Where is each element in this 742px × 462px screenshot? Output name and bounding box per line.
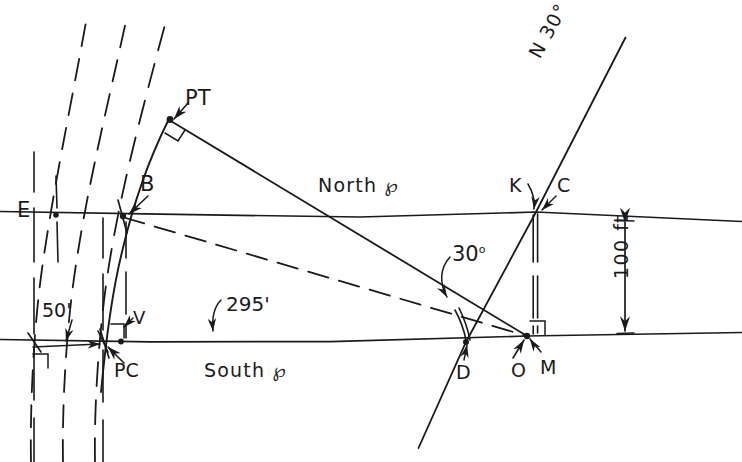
label-m: M xyxy=(540,358,556,377)
label-d: D xyxy=(456,363,471,382)
leader-arrow-k xyxy=(528,184,534,209)
tangent-line-pt-to-o xyxy=(170,121,527,337)
dimension-tick-bottom xyxy=(617,333,634,334)
label-e: E xyxy=(17,200,30,221)
point-marker-o xyxy=(524,333,530,339)
leader-arrow-b xyxy=(129,196,148,214)
label-north-centerline: North ℘ xyxy=(318,176,399,195)
offset-arc-middle xyxy=(63,21,126,462)
label-k: K xyxy=(509,176,521,195)
label-offset-100ft: 100 ft xyxy=(612,214,631,279)
offset-arc-outer xyxy=(31,22,86,462)
dimension-arrow-50-left xyxy=(66,320,72,341)
point-marker-e xyxy=(53,212,59,218)
chord-line-b-to-o xyxy=(124,218,527,337)
label-angle-30deg: 30o xyxy=(452,244,485,265)
offset-arc-inner xyxy=(95,17,167,462)
south-centerline-line xyxy=(0,333,742,342)
angle-value: 30 xyxy=(452,242,479,266)
surveying-diagram-canvas: PT B E North ℘ K C N 30° E 100 ft 30o 50… xyxy=(0,0,742,462)
label-dim-50: 50' xyxy=(42,301,71,320)
point-marker-d xyxy=(463,339,469,345)
extension-line-through-e xyxy=(56,176,58,262)
angle-arc-30-outer xyxy=(455,310,466,340)
bearing-line-n30e xyxy=(419,38,626,449)
leader-arrow-v xyxy=(124,318,133,327)
right-angle-symbol-v xyxy=(111,324,124,338)
degree-symbol: o xyxy=(479,243,486,256)
label-pt: PT xyxy=(185,88,211,109)
right-angle-symbol-left xyxy=(33,354,48,368)
leader-arrow-295 xyxy=(213,300,221,331)
leader-arrow-o xyxy=(513,340,524,358)
right-angle-symbol-pt xyxy=(165,130,185,141)
leader-arrow-30deg xyxy=(442,257,450,297)
point-marker-v xyxy=(118,339,124,345)
label-v: V xyxy=(133,309,145,327)
point-marker-pt xyxy=(167,116,174,123)
label-south-centerline: South ℘ xyxy=(204,361,287,380)
label-o: O xyxy=(511,361,526,380)
point-marker-b xyxy=(120,213,126,219)
leader-arrow-m xyxy=(530,339,541,352)
label-dim-295: 295' xyxy=(226,294,270,314)
label-c: C xyxy=(557,176,570,195)
label-pc: PC xyxy=(114,361,139,380)
label-b: B xyxy=(140,174,154,195)
